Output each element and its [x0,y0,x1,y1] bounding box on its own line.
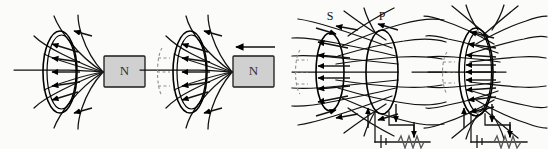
primary-coil-label: P [379,9,386,23]
panel-1-magnet: N [104,56,145,87]
panel-2-magnet: N [233,56,274,87]
secondary-coil-label: S [327,9,334,23]
figure-canvas: N [0,0,548,149]
magnet-north-label: N [249,63,259,78]
electromagnetic-induction-figure: N [0,0,548,149]
magnet-north-label: N [120,63,130,78]
